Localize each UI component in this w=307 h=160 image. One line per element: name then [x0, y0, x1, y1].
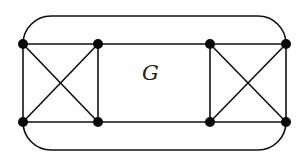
vertex-b	[93, 39, 103, 49]
vertex-d	[93, 117, 103, 127]
vertex-g	[205, 117, 215, 127]
vertex-e	[205, 39, 215, 49]
vertex-c	[18, 117, 28, 127]
graph-diagram: G	[0, 0, 307, 160]
graph-label: G	[142, 63, 159, 84]
outer-curve-bottom	[23, 122, 286, 150]
vertex-h	[281, 117, 291, 127]
vertex-a	[18, 39, 28, 49]
outer-curve-top	[23, 16, 286, 44]
vertex-f	[281, 39, 291, 49]
